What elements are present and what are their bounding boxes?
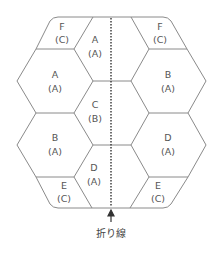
panel-left-a-name: A: [52, 69, 59, 80]
panel-right-f-sub: (C): [153, 34, 167, 45]
panel-mid-a-sub: (A): [88, 48, 102, 59]
panel-left-e-name: E: [61, 180, 67, 191]
panel-mid-a-name: A: [92, 34, 99, 45]
panel-left-a-outline: [36, 49, 93, 113]
hexagon-pattern-diagram: 折り線 F (C) A (A) B (A) E (C) A (A) C (B) …: [0, 0, 220, 253]
fold-line-label: 折り線: [96, 227, 126, 239]
panel-left-e-sub: (C): [57, 193, 71, 204]
panel-right-e-divider: [130, 177, 149, 208]
panel-left-b-outline: [36, 113, 93, 177]
panel-left-b-sub: (A): [48, 146, 62, 157]
panel-mid-d-sub: (A): [87, 176, 101, 187]
panel-right-e-name: E: [155, 180, 161, 191]
panel-right-d-outline: [131, 113, 188, 177]
panel-mid-d-name: D: [90, 162, 97, 173]
panel-left-f-sub: (C): [55, 34, 69, 45]
panel-right-e-sub: (C): [151, 193, 165, 204]
diagram-canvas: 折り線 F (C) A (A) B (A) E (C) A (A) C (B) …: [0, 0, 220, 253]
panel-right-d-sub: (A): [161, 146, 175, 157]
panel-left-f-name: F: [59, 21, 64, 32]
panel-left-a-sub: (A): [48, 83, 62, 94]
fold-line-arrow-icon: [108, 210, 114, 222]
panel-left-f-divider: [74, 17, 93, 49]
panel-right-b-name: B: [165, 69, 172, 80]
panel-right-d-name: D: [164, 132, 171, 143]
panel-mid-c-sub: (B): [88, 113, 102, 124]
panel-mid-c-name: C: [92, 99, 99, 110]
panel-right-b-sub: (A): [161, 83, 175, 94]
panel-left-b-name: B: [52, 132, 59, 143]
panel-right-f-name: F: [157, 21, 162, 32]
